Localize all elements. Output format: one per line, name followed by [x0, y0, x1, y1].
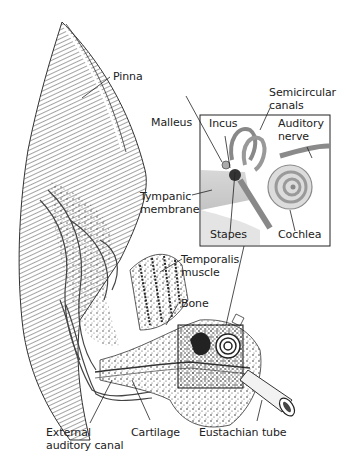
label-semicircular-canals: Semicircular canals [269, 86, 336, 112]
label-cochlea: Cochlea [278, 228, 321, 241]
label-cartilage: Cartilage [131, 426, 180, 439]
label-incus: Incus [209, 117, 237, 130]
label-stapes: Stapes [210, 228, 247, 241]
label-auditory-nerve: Auditory nerve [278, 117, 324, 143]
label-eustachian-tube: Eustachian tube [199, 426, 287, 439]
temporalis-muscle-shape [130, 254, 188, 330]
label-external-auditory-canal: External auditory canal [46, 426, 123, 452]
label-malleus: Malleus [151, 116, 192, 129]
label-bone: Bone [181, 297, 209, 310]
label-temporalis-muscle: Temporalis muscle [181, 253, 239, 279]
label-tympanic-membrane: Tympanic membrane [140, 190, 199, 216]
label-pinna: Pinna [113, 70, 143, 83]
